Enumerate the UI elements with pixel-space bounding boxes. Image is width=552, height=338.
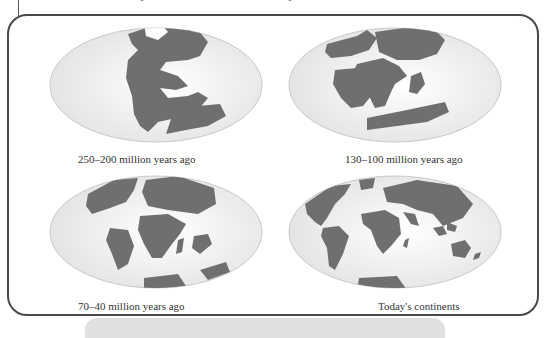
page-margin-line [18, 0, 19, 16]
map-panel-130-100mya [287, 26, 503, 144]
cropped-text-fragment [140, 0, 144, 1]
map-panel-today [287, 174, 503, 292]
breakup-map [48, 174, 264, 292]
modern-world-map [287, 174, 503, 292]
caption-panel-4: Today's continents [378, 300, 460, 312]
caption-panel-3: 70–40 million years ago [78, 300, 185, 312]
caption-panel-1: 250–200 million years ago [78, 153, 196, 165]
map-panel-70-40mya [48, 174, 264, 292]
map-panel-250-200mya [48, 26, 264, 144]
caption-bar [85, 318, 445, 338]
cropped-text-fragment [288, 0, 292, 1]
pangaea-map [48, 26, 264, 144]
caption-panel-2: 130–100 million years ago [345, 153, 463, 165]
laurasia-gondwana-map [287, 26, 503, 144]
